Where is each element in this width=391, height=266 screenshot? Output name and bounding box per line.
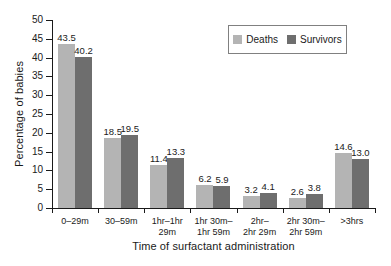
bar-survivors[interactable]: 40.2 [75, 57, 92, 208]
bar-survivors[interactable]: 4.1 [260, 193, 277, 208]
bar-value-label: 11.4 [150, 153, 168, 164]
bar-value-label: 4.1 [262, 181, 275, 192]
x-axis-tick [190, 208, 191, 213]
bar-deaths[interactable]: 6.2 [196, 185, 213, 208]
x-axis-line [52, 208, 375, 209]
y-axis-tick-label: 35 [32, 70, 43, 81]
bar-survivors[interactable]: 13.0 [352, 159, 369, 208]
bar-chart: Percentage of babies 0510152025303540455… [0, 0, 391, 266]
x-axis-category-label: 1hr 30m– 1hr 59m [190, 216, 236, 237]
x-axis-category-label: 0–29m [52, 216, 98, 227]
x-axis-category-label: 2hr– 2hr 29m [237, 216, 283, 237]
y-axis-tick-label: 15 [32, 146, 43, 157]
bar-group: 18.519.5 [98, 20, 144, 208]
legend-entry[interactable]: Survivors [287, 34, 342, 45]
x-axis-tick [329, 208, 330, 213]
legend-label: Survivors [300, 34, 342, 45]
bar-value-label: 18.5 [103, 126, 122, 137]
bar-value-label: 14.6 [334, 141, 353, 152]
x-axis-category-label: 1hr–1hr 29m [144, 216, 190, 237]
chart-legend: DeathsSurvivors [228, 25, 347, 54]
bar-value-label: 40.2 [74, 45, 93, 56]
bar-value-label: 5.9 [215, 174, 228, 185]
bar-survivors[interactable]: 5.9 [213, 186, 230, 208]
bar-deaths[interactable]: 43.5 [58, 44, 75, 208]
x-axis-category-label: 30–59m [98, 216, 144, 227]
y-axis-title: Percentage of babies [13, 29, 25, 199]
y-axis-tick-label: 50 [32, 14, 43, 25]
x-axis-title: Time of surfactant administration [52, 240, 375, 252]
bar-deaths[interactable]: 2.6 [289, 198, 306, 208]
bar-value-label: 13.0 [351, 147, 370, 158]
bar-deaths[interactable]: 11.4 [150, 165, 167, 208]
legend-swatch-icon [233, 35, 242, 44]
x-axis-category-label: 2hr 30m– 2hr 59m [283, 216, 329, 237]
x-axis-category-label: >3hrs [329, 216, 375, 227]
bar-value-label: 43.5 [57, 32, 76, 43]
bar-survivors[interactable]: 13.3 [167, 158, 184, 208]
bar-value-label: 6.2 [198, 173, 211, 184]
bar-deaths[interactable]: 3.2 [243, 196, 260, 208]
bar-deaths[interactable]: 18.5 [104, 138, 121, 208]
bar-value-label: 2.6 [291, 186, 304, 197]
x-axis-tick [375, 208, 376, 213]
y-axis-tick-label: 25 [32, 108, 43, 119]
bars-row: 11.413.3 [144, 20, 190, 208]
legend-entry[interactable]: Deaths [233, 34, 278, 45]
bar-survivors[interactable]: 3.8 [306, 194, 323, 208]
bar-deaths[interactable]: 14.6 [335, 153, 352, 208]
bar-value-label: 13.3 [167, 146, 186, 157]
legend-label: Deaths [246, 34, 278, 45]
bars-row: 43.540.2 [52, 20, 98, 208]
y-axis-tick-label: 40 [32, 52, 43, 63]
y-axis-tick-label: 20 [32, 127, 43, 138]
bar-value-label: 3.2 [245, 184, 258, 195]
y-axis-tick-label: 5 [37, 183, 43, 194]
y-axis-tick-label: 30 [32, 89, 43, 100]
y-axis-tick-label: 45 [32, 33, 43, 44]
bar-value-label: 19.5 [120, 123, 139, 134]
x-axis-tick [52, 208, 53, 213]
y-axis-tick-label: 0 [37, 202, 43, 213]
y-axis-tick-label: 10 [32, 164, 43, 175]
x-axis-tick [283, 208, 284, 213]
bar-group: 11.413.3 [144, 20, 190, 208]
bar-value-label: 3.8 [308, 182, 321, 193]
bars-row: 18.519.5 [98, 20, 144, 208]
legend-swatch-icon [287, 35, 296, 44]
x-axis-tick [98, 208, 99, 213]
bar-survivors[interactable]: 19.5 [121, 135, 138, 208]
bar-group: 43.540.2 [52, 20, 98, 208]
x-axis-tick [237, 208, 238, 213]
x-axis-tick [144, 208, 145, 213]
